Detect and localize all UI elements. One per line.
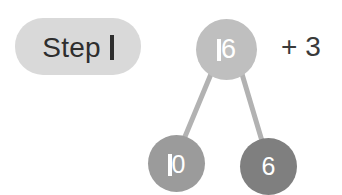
connector-root-to-right <box>242 74 262 141</box>
number-bond-node-root-label: 6 <box>217 36 236 63</box>
number-bond-node-right: 6 <box>240 138 297 195</box>
operation-annotation: + 3 <box>281 33 321 61</box>
number-bond-node-right-label: 6 <box>262 154 276 179</box>
number-bond-node-left: 0 <box>148 135 205 192</box>
diagram-canvas: Step 6 0 6 + 3 <box>0 0 342 195</box>
root-number-rest: 6 <box>221 36 236 63</box>
number-bond-node-left-label: 0 <box>168 151 186 177</box>
left-number-one-glyph <box>168 154 172 176</box>
number-bond-node-root: 6 <box>196 19 257 80</box>
left-number-rest: 0 <box>172 152 186 177</box>
root-number-one-glyph <box>217 39 221 61</box>
connector-root-to-left <box>184 74 211 139</box>
